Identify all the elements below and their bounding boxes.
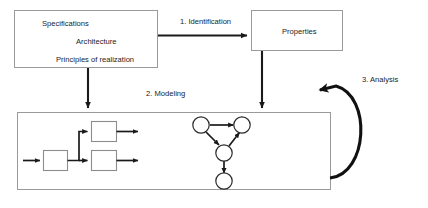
block-stage-2-lower [92,151,117,171]
design-flow-diagram: Specifications Architecture Principles o… [0,0,428,208]
properties-label: Properties [282,27,317,36]
block-stage-1 [44,151,68,171]
block-stage-2-upper [92,122,117,142]
diagram-canvas: Specifications Architecture Principles o… [0,0,428,208]
step-label-analysis: 3. Analysis [362,75,399,84]
step-label-identification: 1. Identification [180,17,231,26]
requirements-line-specifications: Specifications [42,19,89,28]
graph-node-d [216,173,232,189]
step-label-modeling: 2. Modeling [146,89,185,98]
graph-node-b [234,117,250,133]
requirements-line-principles: Principles of realization [56,55,134,64]
requirements-line-architecture: Architecture [76,37,117,46]
graph-node-a [193,117,209,133]
graph-node-c [216,145,232,161]
